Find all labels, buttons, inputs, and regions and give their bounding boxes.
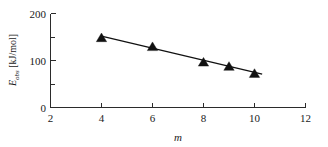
y-axis-symbol: E [7,80,18,87]
x-tick-label-10: 10 [249,112,261,124]
chart-canvas: 200 100 0 2 4 6 8 10 12 m Eobs [kJ/mol] [0,0,328,147]
y-axis-subscript: obs [13,70,21,80]
data-series-layer [96,33,262,77]
x-tick-label-4: 4 [99,112,105,124]
x-tick-label-2: 2 [48,112,54,124]
y-tick-label-100: 100 [30,55,47,67]
x-axis-title: m [174,131,182,143]
data-point-marker [147,42,157,51]
svg-text:Eobs [kJ/mol]: Eobs [kJ/mol] [7,34,21,87]
y-axis-units: [kJ/mol] [7,34,18,68]
chart-figure: 200 100 0 2 4 6 8 10 12 m Eobs [kJ/mol] [0,0,328,147]
x-tick-label-6: 6 [150,112,156,124]
trend-line [102,36,263,74]
x-tick-label-8: 8 [201,112,207,124]
y-axis-title: Eobs [kJ/mol] [7,34,21,87]
x-tick-label-12: 12 [300,112,311,124]
y-tick-label-0: 0 [41,102,47,114]
y-tick-label-200: 200 [30,8,47,20]
